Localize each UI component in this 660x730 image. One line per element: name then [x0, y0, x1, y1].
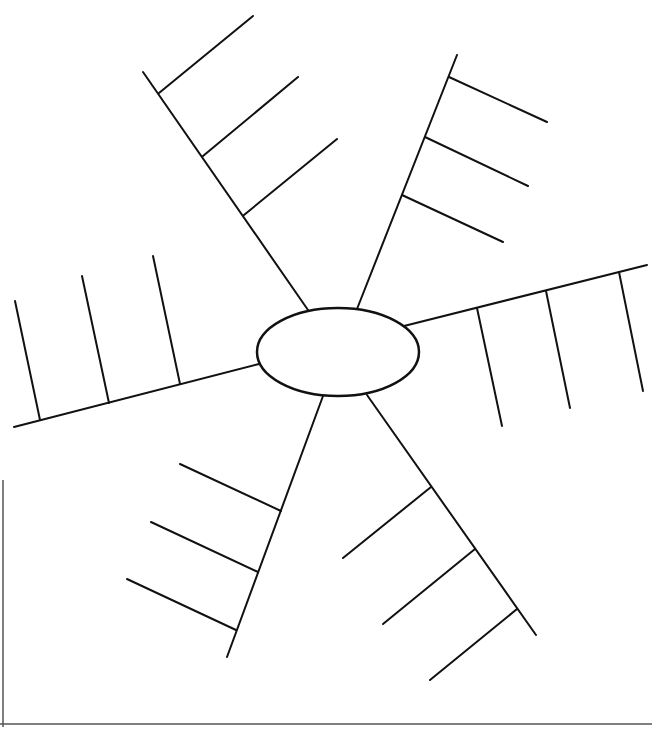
spoke-top-right: [357, 55, 547, 309]
branch-line-left-2: [82, 276, 109, 403]
spoke-left: [14, 256, 259, 427]
branch-line-bottom-right-3: [430, 609, 517, 680]
branch-line-top-left-2: [203, 77, 298, 156]
page-frame-lines: [0, 480, 652, 727]
branch-line-right-2: [546, 291, 570, 408]
branch-line-left-3: [15, 301, 40, 420]
branch-line-top-left-3: [244, 139, 337, 215]
spoke-line-left: [14, 364, 259, 427]
spoke-top-left: [143, 16, 337, 310]
branch-line-top-right-2: [425, 137, 528, 186]
spoke-right: [404, 265, 647, 426]
branch-line-bottom-left-2: [151, 522, 258, 572]
spoke-line-bottom-left: [227, 396, 323, 657]
branch-line-bottom-right-2: [383, 549, 475, 624]
spoke-line-top-right: [357, 55, 457, 309]
branch-line-top-right-1: [449, 77, 547, 122]
spoke-bottom-right: [343, 395, 536, 680]
branch-line-bottom-left-3: [127, 579, 236, 630]
spider-map-diagram: [0, 0, 660, 730]
branch-line-right-3: [619, 272, 643, 391]
central-topic-oval: [257, 308, 419, 396]
branch-line-right-1: [477, 308, 502, 426]
branch-line-top-left-1: [159, 16, 253, 93]
spoke-line-bottom-right: [367, 395, 536, 635]
spoke-line-top-left: [143, 72, 308, 310]
branch-line-left-1: [153, 256, 180, 384]
branch-line-top-right-3: [402, 195, 503, 242]
spoke-bottom-left: [127, 396, 323, 657]
branch-line-bottom-right-1: [343, 487, 431, 558]
branch-line-bottom-left-1: [180, 464, 281, 511]
spoke-line-right: [404, 265, 647, 326]
